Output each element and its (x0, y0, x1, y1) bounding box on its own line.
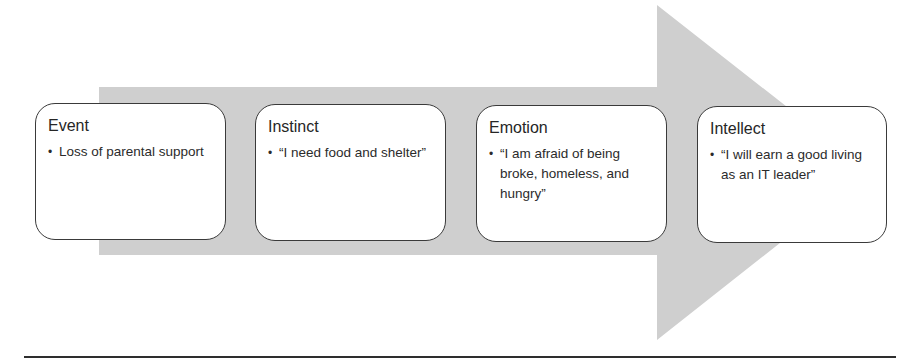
step-bullet-list: • Loss of parental support (48, 142, 215, 162)
step-emotion: Emotion • “I am afraid of being broke, h… (476, 105, 667, 242)
bullet-icon: • (489, 144, 493, 164)
step-title: Intellect (710, 119, 876, 139)
bullet-icon: • (710, 145, 714, 165)
step-event: Event • Loss of parental support (35, 103, 226, 240)
bullet-icon: • (268, 143, 272, 163)
step-bullet: • “I need food and shelter” (268, 143, 435, 163)
step-bullet: • “I will earn a good living as an IT le… (710, 145, 876, 185)
step-bullet-list: • “I am afraid of being broke, homeless,… (489, 144, 656, 204)
step-title: Event (48, 116, 215, 136)
step-instinct: Instinct • “I need food and shelter” (255, 104, 446, 241)
step-bullet-text: “I need food and shelter” (279, 145, 426, 160)
step-intellect: Intellect • “I will earn a good living a… (697, 106, 887, 243)
step-bullet-list: • “I will earn a good living as an IT le… (710, 145, 876, 185)
step-bullet: • “I am afraid of being broke, homeless,… (489, 144, 656, 204)
bottom-divider (24, 356, 896, 358)
step-bullet-text: “I am afraid of being broke, homeless, a… (500, 146, 629, 201)
step-bullet-text: Loss of parental support (59, 144, 204, 159)
step-title: Emotion (489, 118, 656, 138)
step-bullet: • Loss of parental support (48, 142, 215, 162)
step-title: Instinct (268, 117, 435, 137)
step-bullet-list: • “I need food and shelter” (268, 143, 435, 163)
bullet-icon: • (48, 142, 52, 162)
step-bullet-text: “I will earn a good living as an IT lead… (721, 147, 862, 182)
